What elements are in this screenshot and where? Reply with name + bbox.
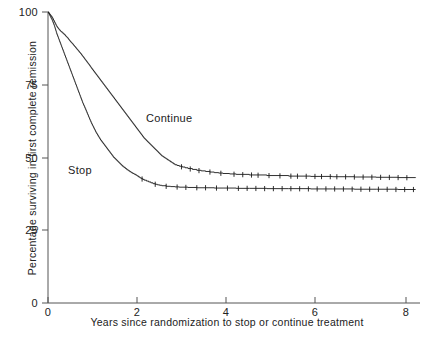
survival-chart-figure: 0 25 50 75 100 0 2 4 6 8 Years since ran… <box>0 0 431 339</box>
y-axis-title: Percentage surviving in first complete r… <box>26 28 38 288</box>
series-path-continue <box>48 12 416 178</box>
y-tick-marks <box>42 12 48 303</box>
axis-lines <box>48 12 420 303</box>
plot-area <box>0 0 431 339</box>
y-tick-label-100: 100 <box>4 6 38 18</box>
x-tick-marks <box>48 297 406 303</box>
censor-marks-stop <box>142 176 413 192</box>
series-layer <box>48 12 416 192</box>
series-path-stop <box>48 12 416 190</box>
x-axis-title: Years since randomization to stop or con… <box>48 316 406 328</box>
y-tick-label-0: 0 <box>4 297 38 309</box>
series-label-stop: Stop <box>68 164 92 176</box>
series-label-continue: Continue <box>146 112 192 124</box>
